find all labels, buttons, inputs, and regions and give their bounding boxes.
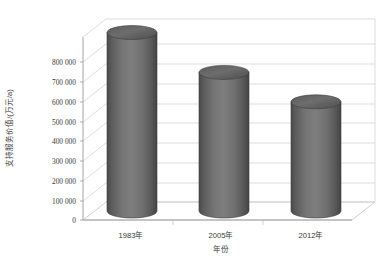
- y-tick-label: 0: [72, 216, 76, 225]
- bar-chart-3d: 800 000 700 000 600 000 500 000 400 000 …: [0, 0, 389, 272]
- bar-top-cap: [107, 26, 157, 40]
- bar-1983: [107, 26, 157, 219]
- x-axis-tick-labels: 1983年 2005年 2012年: [119, 230, 324, 240]
- y-tick-label: 100 000: [52, 197, 76, 206]
- bar-body: [199, 72, 249, 218]
- chart-container: 800 000 700 000 600 000 500 000 400 000 …: [0, 0, 389, 272]
- y-tick-label: 500 000: [52, 118, 76, 127]
- x-axis-separators: [173, 220, 263, 225]
- bar-body: [291, 102, 341, 218]
- y-tick-label: 300 000: [52, 157, 76, 166]
- x-axis-title: 年份: [213, 244, 229, 254]
- bar-top-cap: [291, 95, 341, 109]
- y-tick-label: 800 000: [52, 58, 76, 67]
- y-axis-tick-labels: 800 000 700 000 600 000 500 000 400 000 …: [52, 58, 76, 225]
- y-tick-label: 700 000: [52, 78, 76, 87]
- bar-2012: [291, 95, 341, 218]
- bar-body: [107, 33, 157, 219]
- bar-2005: [199, 65, 249, 218]
- y-tick-label: 600 000: [52, 98, 76, 107]
- y-tick-label: 400 000: [52, 137, 76, 146]
- x-tick-label-2005: 2005年: [209, 230, 234, 240]
- y-tick-label: 200 000: [52, 177, 76, 186]
- x-tick-label-2012: 2012年: [299, 230, 324, 240]
- y-axis-title: 支持服务价值/(万元/a): [4, 89, 14, 167]
- bar-top-cap: [199, 65, 249, 79]
- x-tick-label-1983: 1983年: [119, 230, 144, 240]
